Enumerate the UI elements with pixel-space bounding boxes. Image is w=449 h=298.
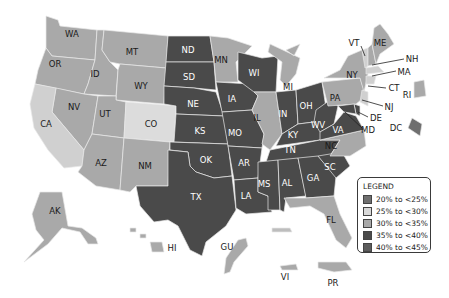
legend-swatch [363,219,372,228]
state-MD[interactable] [338,104,356,114]
label-VA: VA [332,125,343,135]
label-NM: NM [138,161,152,171]
state-PR[interactable] [318,262,352,272]
legend-item-25-30: 25% to <30% [363,205,430,217]
label-HI: HI [168,243,177,253]
state-DC[interactable] [408,118,422,136]
legend-swatch [363,231,372,240]
label-CT: CT [388,83,400,93]
label-OH: OH [299,101,312,111]
label-WA: WA [65,29,79,39]
label-NJ: NJ [385,102,394,112]
label-NY: NY [346,70,358,80]
label-MS: MS [258,179,271,189]
legend: LEGEND 20% to <25% 25% to <30% 30% to <3… [357,177,431,253]
label-GA: GA [307,173,320,183]
label-RI: RI [403,90,411,100]
legend-item-35-40: 35% to <40% [363,229,430,241]
label-IL: IL [253,113,261,123]
label-TX: TX [189,192,201,202]
label-ND: ND [182,45,195,55]
label-MI: MI [283,82,293,92]
label-MD: MD [361,125,375,135]
label-TN: TN [283,145,296,155]
state-CT[interactable] [366,76,376,84]
label-NC: NC [325,141,337,151]
legend-title: LEGEND [363,182,430,191]
label-AR: AR [238,158,250,168]
label-NH: NH [406,54,419,64]
state-HI[interactable] [130,228,164,252]
label-MO: MO [228,128,242,138]
label-AZ: AZ [95,158,107,168]
label-FL: FL [326,215,336,225]
state-cuba-islands [272,228,292,232]
label-VT: VT [348,38,360,48]
label-WI: WI [249,68,260,78]
legend-label: 30% to <35% [376,219,428,228]
label-WY: WY [134,81,148,91]
label-KY: KY [288,130,299,140]
legend-swatch [363,207,372,216]
label-MA: MA [397,67,410,77]
label-MN: MN [214,55,228,65]
label-UT: UT [99,109,111,119]
legend-item-30-35: 30% to <35% [363,217,430,229]
label-ME: ME [374,38,387,48]
label-DC: DC [390,123,403,133]
legend-item-40-45: 40% to <45% [363,241,430,253]
label-OK: OK [200,155,213,165]
legend-label: 20% to <25% [376,195,428,204]
label-KS: KS [195,126,206,136]
legend-item-20-25: 20% to <25% [363,193,430,205]
legend-label: 25% to <30% [376,207,428,216]
state-VI[interactable] [280,264,298,270]
label-GU: GU [221,242,234,252]
label-CA: CA [40,119,52,129]
label-IA: IA [228,94,237,104]
label-NV: NV [68,102,80,112]
label-PR: PR [327,278,338,288]
label-PA: PA [330,93,341,103]
label-CO: CO [145,119,158,129]
label-NE: NE [187,99,199,109]
legend-swatch [363,243,372,252]
label-ID: ID [90,69,100,79]
label-MT: MT [126,47,139,57]
label-SC: SC [324,162,335,172]
label-SD: SD [183,72,195,82]
us-choropleth-map: WA OR ID MT WY NV CA UT CO AZ NM ND SD N… [0,0,449,298]
label-WV: WV [311,120,325,130]
legend-label: 35% to <40% [376,231,428,240]
state-MA[interactable] [366,66,384,74]
state-RI[interactable] [414,80,426,98]
state-FL[interactable] [284,196,352,248]
label-DE: DE [370,113,382,123]
leader-CT [368,86,386,88]
label-LA: LA [241,191,252,201]
state-AK[interactable] [24,192,98,262]
label-OR: OR [49,59,62,69]
legend-label: 40% to <45% [376,243,428,252]
legend-swatch [363,195,372,204]
label-IN: IN [279,109,288,119]
label-AK: AK [49,206,61,216]
label-VI: VI [281,272,289,282]
state-PA[interactable] [322,78,366,106]
label-AL: AL [282,178,293,188]
